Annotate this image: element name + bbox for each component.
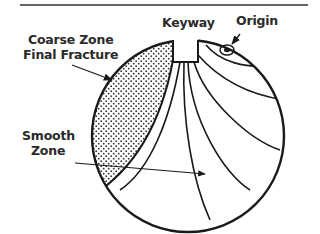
coarse-zone-label-line2: Final Fracture bbox=[23, 47, 118, 62]
keyway-notch bbox=[173, 36, 198, 62]
smooth-zone-label: Smooth Zone bbox=[22, 128, 75, 158]
origin-arrow bbox=[232, 34, 240, 44]
smooth-zone-label-line1: Smooth bbox=[22, 128, 75, 143]
smooth-zone-label-line2: Zone bbox=[31, 143, 75, 158]
origin-label: Origin bbox=[236, 13, 278, 28]
keyway-label: Keyway bbox=[162, 15, 215, 30]
coarse-zone-label-line1: Coarse Zone bbox=[28, 32, 118, 47]
smooth-zone-arrow bbox=[75, 163, 205, 174]
coarse-zone-label: Coarse Zone Final Fracture bbox=[28, 32, 118, 62]
coarse-zone-arrow bbox=[72, 65, 112, 80]
